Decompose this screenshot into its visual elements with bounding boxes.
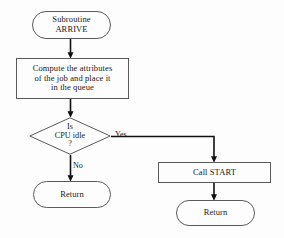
terminal-return-yes-branch: Return — [176, 200, 255, 226]
terminal-return-no-branch: Return — [33, 181, 111, 208]
terminal-subroutine-arrive: Subroutine ARRIVE — [32, 11, 111, 39]
process-compute-attributes-label: Compute the attributes of the job and pl… — [33, 64, 113, 93]
edge-decision-yes-to-call-start — [111, 137, 214, 160]
process-call-start: Call START — [158, 162, 271, 183]
terminal-return-yes-branch-label: Return — [204, 208, 228, 218]
terminal-subroutine-arrive-label: Subroutine ARRIVE — [52, 15, 90, 34]
process-compute-attributes: Compute the attributes of the job and pl… — [16, 58, 129, 99]
flowchart-diagram: Subroutine ARRIVE Compute the attributes… — [0, 0, 284, 238]
decision-is-cpu-idle-label: Is CPU idle ? — [55, 123, 85, 149]
edge-label-yes: Yes — [115, 130, 127, 139]
decision-is-cpu-idle: Is CPU idle ? — [29, 117, 111, 155]
terminal-return-no-branch-label: Return — [60, 190, 84, 200]
process-call-start-label: Call START — [193, 168, 236, 178]
edge-label-no: No — [73, 161, 83, 170]
